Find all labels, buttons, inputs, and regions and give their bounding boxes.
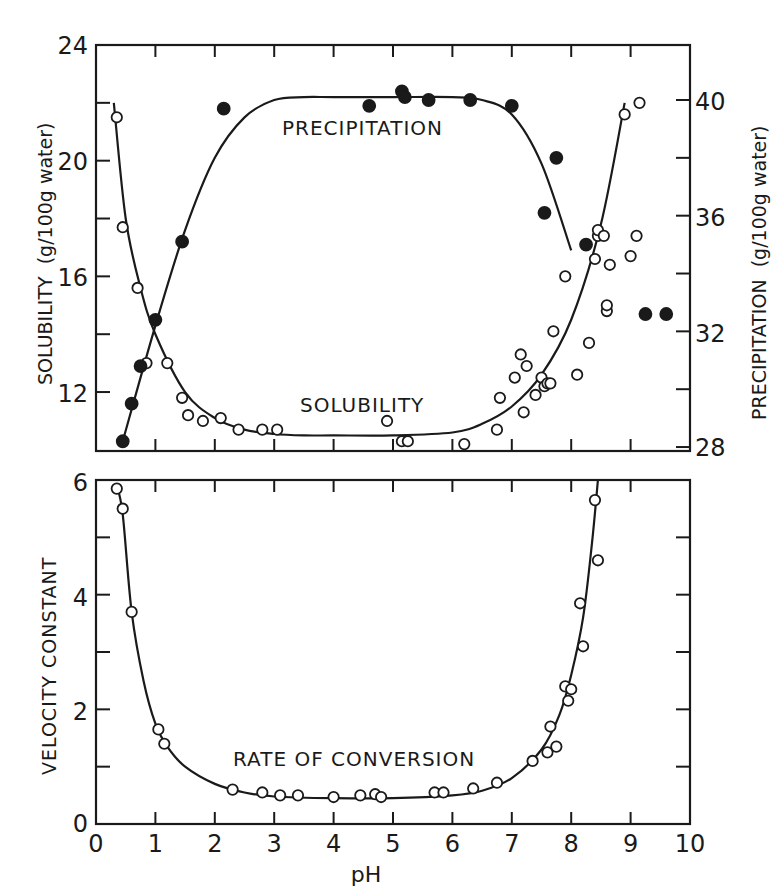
solubility-point <box>518 407 528 417</box>
rate-point <box>328 792 338 802</box>
rate-point <box>438 787 448 797</box>
rate-point <box>590 495 600 505</box>
bottom-plot-frame <box>96 480 690 824</box>
precipitation-point <box>363 100 375 112</box>
rate-point <box>275 790 285 800</box>
left-tick-16: 16 <box>57 264 88 292</box>
rate-point <box>551 741 561 751</box>
precipitation-point <box>126 398 138 410</box>
right-tick-28: 28 <box>695 434 726 462</box>
solubility-point <box>625 251 635 261</box>
rate-point <box>376 792 386 802</box>
rate-point <box>545 721 555 731</box>
rate-point <box>593 555 603 565</box>
right-tick-40: 40 <box>695 88 726 116</box>
rate-point <box>468 783 478 793</box>
rate-point <box>159 739 169 749</box>
precipitation-point <box>550 152 562 164</box>
solubility-annotation: SOLUBILITY <box>300 393 424 417</box>
solubility-point <box>619 109 629 119</box>
precipitation-point <box>399 91 411 103</box>
solubility-point <box>257 424 267 434</box>
precipitation-point <box>135 360 147 372</box>
solubility-point <box>521 361 531 371</box>
solubility-point <box>584 338 594 348</box>
solubility-point <box>216 413 226 423</box>
rate-point <box>112 483 122 493</box>
solubility-point <box>177 393 187 403</box>
rate-point <box>153 724 163 734</box>
left-tick-12: 12 <box>57 380 88 408</box>
solubility-point <box>162 358 172 368</box>
precipitation-point <box>218 103 230 115</box>
x-tick-label: 10 <box>675 830 706 858</box>
x-tick-label: 4 <box>326 830 341 858</box>
precipitation-annotation: PRECIPITATION <box>282 116 443 140</box>
solubility-point <box>118 222 128 232</box>
precipitation-point <box>117 435 129 447</box>
rate-point <box>293 790 303 800</box>
x-tick-label: 0 <box>88 830 103 858</box>
top-panel: 24 20 16 12 40 36 32 28 SOLUBILITY (g/10… <box>34 32 770 462</box>
solubility-axis-label: SOLUBILITY (g/100g water) <box>34 123 56 385</box>
right-tick-32: 32 <box>695 320 726 348</box>
rate-point <box>118 503 128 513</box>
bottom-tick-marks <box>96 480 690 824</box>
solubility-point <box>548 326 558 336</box>
right-tick-36: 36 <box>695 204 726 232</box>
precipitation-point <box>423 94 435 106</box>
solubility-point <box>602 300 612 310</box>
x-tick-label: 2 <box>207 830 222 858</box>
bottom-panel: 6 4 2 0 VELOCITY CONSTANT RATE OF CONVER… <box>38 469 705 887</box>
rate-point <box>578 641 588 651</box>
x-tick-label: 3 <box>267 830 282 858</box>
solubility-point <box>198 416 208 426</box>
solubility-point <box>631 231 641 241</box>
rate-point <box>566 684 576 694</box>
precipitation-point <box>660 308 672 320</box>
rate-point <box>492 778 502 788</box>
rate-point <box>227 784 237 794</box>
fit-curve <box>123 97 571 441</box>
rate-annotation: RATE OF CONVERSION <box>233 747 475 771</box>
solubility-point <box>495 393 505 403</box>
solubility-point <box>605 260 615 270</box>
precipitation-point <box>538 207 550 219</box>
velocity-tick-2: 2 <box>73 698 88 726</box>
solubility-point <box>530 390 540 400</box>
solubility-point <box>132 283 142 293</box>
precipitation-point <box>506 100 518 112</box>
solubility-point <box>590 254 600 264</box>
x-tick-label: 9 <box>623 830 638 858</box>
solubility-point <box>545 378 555 388</box>
figure: 24 20 16 12 40 36 32 28 SOLUBILITY (g/10… <box>0 0 778 896</box>
solubility-point <box>572 369 582 379</box>
solubility-point <box>459 439 469 449</box>
left-tick-20: 20 <box>57 148 88 176</box>
solubility-point <box>492 424 502 434</box>
solubility-point <box>516 349 526 359</box>
rate-point <box>527 756 537 766</box>
top-tick-marks <box>96 45 690 451</box>
solubility-point <box>112 112 122 122</box>
precipitation-point <box>176 236 188 248</box>
velocity-tick-6: 6 <box>73 469 88 497</box>
rate-point <box>575 598 585 608</box>
x-tick-label: 7 <box>504 830 519 858</box>
solubility-point <box>183 410 193 420</box>
solubility-point <box>382 416 392 426</box>
solubility-point <box>560 271 570 281</box>
solubility-point <box>599 231 609 241</box>
solubility-point <box>510 372 520 382</box>
x-tick-labels: 012345678910 <box>88 830 705 858</box>
left-tick-24: 24 <box>57 32 88 60</box>
rate-point <box>563 696 573 706</box>
x-tick-label: 8 <box>564 830 579 858</box>
top-plot-frame <box>96 45 690 451</box>
precipitation-axis-label: PRECIPITATION (g/100g water) <box>748 126 770 421</box>
solubility-point <box>233 424 243 434</box>
solubility-point <box>272 424 282 434</box>
x-tick-label: 6 <box>445 830 460 858</box>
x-tick-label: 1 <box>148 830 163 858</box>
rate-point <box>355 790 365 800</box>
